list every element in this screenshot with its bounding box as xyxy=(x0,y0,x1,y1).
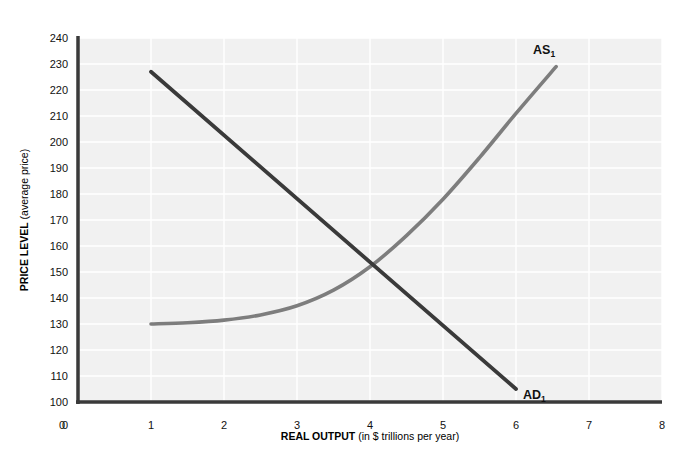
y-axis-tick-120: 120 xyxy=(50,344,68,356)
y-axis-tick-200: 200 xyxy=(50,136,68,148)
chart-canvas: 1001101201301401501601701801902002102202… xyxy=(0,0,697,467)
aggregate-supply-demand-chart: 1001101201301401501601701801902002102202… xyxy=(0,0,697,467)
y-axis-tick-240: 240 xyxy=(50,32,68,44)
svg-text:REAL OUTPUT (in $ trillions pe: REAL OUTPUT (in $ trillions per year) xyxy=(281,430,459,442)
x-axis-title: REAL OUTPUT (in $ trillions per year) xyxy=(281,430,459,442)
y-axis-tick-180: 180 xyxy=(50,188,68,200)
y-axis-tick-230: 230 xyxy=(50,58,68,70)
y-axis-title-normal: (average price) xyxy=(18,149,30,223)
y-axis-tick-190: 190 xyxy=(50,162,68,174)
y-axis-tick-100: 100 xyxy=(50,396,68,408)
y-axis-tick-170: 170 xyxy=(50,214,68,226)
y-axis-tick-110: 110 xyxy=(50,370,68,382)
y-axis-tick-210: 210 xyxy=(50,110,68,122)
ad-curve-label-main: AD xyxy=(523,388,541,402)
svg-text:PRICE LEVEL (average price): PRICE LEVEL (average price) xyxy=(18,149,30,291)
ad-curve-label-subscript: 1 xyxy=(541,394,546,404)
x-axis-tick-7: 7 xyxy=(586,419,592,431)
x-axis-title-bold: REAL OUTPUT xyxy=(281,430,356,442)
y-axis-tick-140: 140 xyxy=(50,292,68,304)
as-curve-label-main: AS xyxy=(533,43,550,57)
y-axis-origin-label: 0 xyxy=(62,419,68,431)
y-axis-title-bold: PRICE LEVEL xyxy=(18,222,30,291)
y-axis-tick-220: 220 xyxy=(50,84,68,96)
x-axis-tick-6: 6 xyxy=(513,419,519,431)
y-axis-tick-labels: 1001101201301401501601701801902002102202… xyxy=(50,32,68,408)
x-axis-tick-1: 1 xyxy=(148,419,154,431)
x-axis-tick-8: 8 xyxy=(659,419,665,431)
y-axis-title: PRICE LEVEL (average price) xyxy=(18,149,30,291)
y-axis-tick-160: 160 xyxy=(50,240,68,252)
as-curve-label-subscript: 1 xyxy=(550,49,555,59)
y-axis-tick-130: 130 xyxy=(50,318,68,330)
x-axis-tick-2: 2 xyxy=(221,419,227,431)
y-axis-tick-150: 150 xyxy=(50,266,68,278)
x-axis-title-normal: (in $ trillions per year) xyxy=(355,430,459,442)
